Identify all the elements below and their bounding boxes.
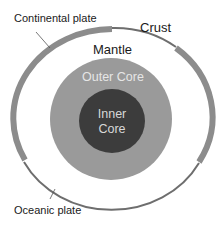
inner-core-label-line1: Inner: [98, 107, 127, 121]
inner-core-disc: [79, 89, 145, 153]
crust-label: Crust: [140, 20, 171, 35]
earth-layers-svg: Continental plate Crust Mantle Outer Cor…: [0, 0, 222, 230]
earth-layers-diagram: Continental plate Crust Mantle Outer Cor…: [0, 0, 222, 230]
inner-core-label-line2: Core: [98, 122, 125, 136]
mantle-label: Mantle: [93, 42, 132, 57]
continental-crust-right: [176, 48, 213, 162]
continental-plate-label: Continental plate: [14, 12, 97, 24]
continental-plate-leader-line: [36, 32, 50, 48]
outer-core-label: Outer Core: [82, 70, 144, 84]
oceanic-plate-label: Oceanic plate: [14, 204, 81, 216]
